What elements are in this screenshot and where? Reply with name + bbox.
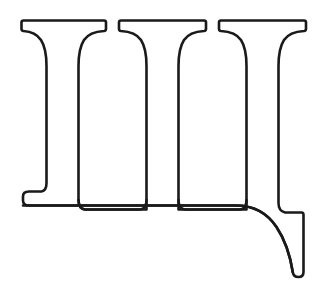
glyph-svg: Cyrillic Capital Letter Shcha Single bla… <box>0 0 328 290</box>
glyph-canvas: Cyrillic Capital Letter Shcha Single bla… <box>0 0 328 290</box>
